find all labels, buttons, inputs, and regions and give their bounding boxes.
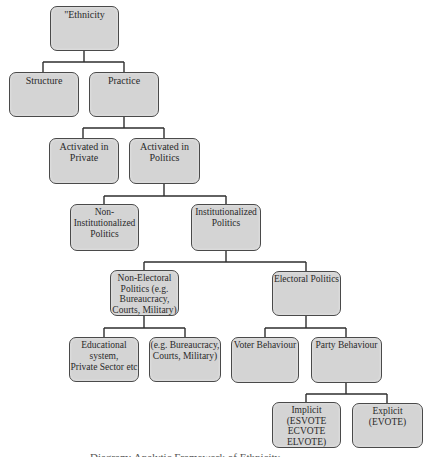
diagram-caption: Diagram: Analytic Framework of Ethnicity [90,449,350,457]
node-party-behaviour: Party Behaviour [311,337,382,383]
node-institutionalized-politics: Institutionalized Politics [191,204,261,251]
node-non-institutionalized-politics: Non- Institutionalized Politics [70,204,139,251]
node-non-electoral-politics: Non-Electoral Politics (e.g. Bureaucracy… [110,270,179,316]
node-activated-in-private: Activated in Private [49,138,119,184]
node-structure: Structure [9,72,79,117]
node-implicit: Implicit (ESVOTE ECVOTE ELVOTE) [272,402,341,448]
ethnicity-tree-diagram: "Ethnicity Structure Practice Activated … [0,0,429,457]
node-educational-system: Educational system, Private Sector etc [69,337,139,382]
node-electoral-politics: Electoral Politics [272,271,341,316]
node-voter-behaviour: Voter Behaviour [231,337,299,383]
node-ethnicity: "Ethnicity [50,6,119,51]
node-practice: Practice [89,72,159,117]
node-explicit: Explicit (EVOTE) [352,403,423,448]
node-activated-in-politics: Activated in Politics [129,138,200,184]
node-eg-bureaucracy: (e.g. Bureaucracy, Courts, Military) [149,337,221,382]
